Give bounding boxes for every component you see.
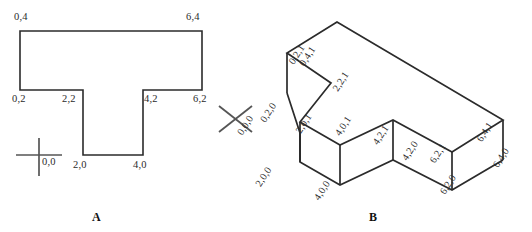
figure-b-bottom-edges: [287, 93, 503, 190]
vertex-label: 6,2: [193, 94, 207, 105]
vertex-label: 0,4: [14, 12, 28, 23]
figure-b-top-face: [287, 22, 503, 152]
origin-label-a: 0,0: [42, 157, 56, 168]
figure-a-outline: [20, 31, 202, 155]
vertex-label: 2,0: [73, 160, 87, 171]
diagram-canvas: 0,4 6,4 0,2 2,2 4,2 6,2 2,0 4,0 0,0 0,4,…: [0, 0, 532, 232]
figure-b-geometry: [287, 22, 503, 190]
vertex-label: 2,2: [62, 94, 76, 105]
vertex-label: 4,2: [144, 94, 158, 105]
vertex-label: 4,0: [133, 160, 147, 171]
figure-caption-a: A: [92, 210, 101, 225]
vertex-label: 6,4: [186, 12, 200, 23]
vertex-label: 0,2: [12, 94, 26, 105]
figure-caption-b: B: [369, 210, 377, 225]
